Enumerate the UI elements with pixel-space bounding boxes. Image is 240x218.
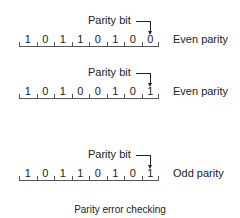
tick [19,176,20,180]
tick [124,94,125,98]
bit: 1 [107,85,125,97]
bit: 0 [37,85,55,97]
bit: 0 [89,167,107,179]
bit: 1 [107,167,125,179]
bit: 1 [54,167,72,179]
tick [124,176,125,180]
bit: 0 [89,33,107,45]
bit: 1 [107,33,125,45]
tick [89,94,90,98]
tick [37,176,38,180]
parity-type-label: Even parity [173,85,228,97]
bit: 0 [72,85,90,97]
parity-bit: 0 [142,33,160,45]
tick [72,176,73,180]
bit: 1 [19,167,37,179]
tick [54,176,55,180]
tick [107,94,108,98]
tick [158,42,159,46]
tick [37,94,38,98]
bit: 1 [19,33,37,45]
parity-bit-label: Parity bit [88,148,131,160]
pointer-line [136,155,150,156]
tick [89,42,90,46]
bit: 1 [19,85,37,97]
bit: 1 [54,33,72,45]
bit: 0 [124,167,142,179]
tick [158,176,159,180]
parity-row-3: Parity bit 1 0 1 1 0 1 0 1 Odd parity [0,148,240,198]
parity-bit-label: Parity bit [88,14,131,26]
bit-baseline [19,180,159,181]
bit: 0 [37,167,55,179]
parity-bit-label: Parity bit [88,66,131,78]
tick [54,42,55,46]
parity-bit: 1 [142,167,160,179]
tick [54,94,55,98]
bit: 0 [124,85,142,97]
tick [124,42,125,46]
tick [142,176,143,180]
pointer-line [136,21,150,22]
bit: 1 [72,167,90,179]
tick [72,42,73,46]
bit: 1 [72,33,90,45]
bit: 0 [124,33,142,45]
bit: 0 [89,85,107,97]
tick [158,94,159,98]
pointer-line [136,73,150,74]
tick [19,42,20,46]
tick [107,176,108,180]
bit-baseline [19,98,159,99]
tick [89,176,90,180]
parity-row-1: Parity bit 1 0 1 1 0 1 0 0 Even parity [0,14,240,64]
diagram-caption: Parity error checking [0,204,240,215]
parity-row-2: Parity bit 1 0 1 0 0 1 0 1 Even parity [0,66,240,116]
bit: 0 [37,33,55,45]
parity-type-label: Odd parity [173,167,224,179]
tick [72,94,73,98]
parity-type-label: Even parity [173,33,228,45]
tick [107,42,108,46]
bit-baseline [19,46,159,47]
parity-bit: 1 [142,85,160,97]
tick [37,42,38,46]
tick [142,42,143,46]
tick [142,94,143,98]
bit: 1 [54,85,72,97]
tick [19,94,20,98]
